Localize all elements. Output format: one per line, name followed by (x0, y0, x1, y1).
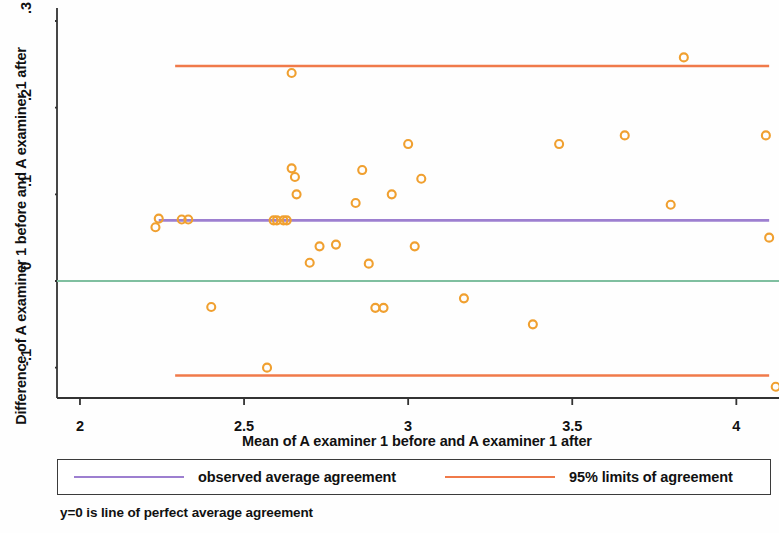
data-point (316, 242, 324, 250)
data-point (293, 190, 301, 198)
data-point (306, 259, 314, 267)
y-tick-label: .3 (18, 2, 34, 36)
data-point (288, 69, 296, 77)
data-point (291, 173, 299, 181)
y-tick-label: 0 (18, 262, 34, 296)
bland-altman-figure: Difference of A examiner 1 before and A … (0, 0, 779, 533)
data-point (151, 223, 159, 231)
data-point (762, 131, 770, 139)
legend: observed average agreement 95% limits of… (57, 459, 771, 495)
data-point (371, 304, 379, 312)
data-point (667, 201, 675, 209)
legend-item-observed-average-agreement: observed average agreement (74, 460, 396, 494)
x-tick-label: 2.5 (219, 418, 269, 434)
x-tick-label: 3.5 (547, 418, 597, 434)
data-point (765, 234, 773, 242)
data-point (380, 304, 388, 312)
legend-swatch-95-limits-of-agreement (445, 476, 555, 478)
data-point (207, 303, 215, 311)
legend-swatch-observed-average-agreement (74, 476, 184, 478)
legend-item-95-limits-of-agreement: 95% limits of agreement (445, 460, 733, 494)
data-point (352, 199, 360, 207)
data-point (388, 190, 396, 198)
y-tick-label: -.1 (18, 349, 34, 383)
data-point (529, 320, 537, 328)
data-point (263, 364, 271, 372)
data-point (680, 53, 688, 61)
data-point (288, 164, 296, 172)
y-tick-label: .1 (18, 175, 34, 209)
data-point (404, 140, 412, 148)
data-point (411, 242, 419, 250)
data-point (772, 383, 779, 391)
data-point (555, 140, 563, 148)
figure-caption: y=0 is line of perfect average agreement (60, 505, 313, 520)
plot-area: -.10.1.2.3 22.533.54 (55, 8, 779, 406)
scatter-points (151, 53, 779, 390)
data-point (358, 166, 366, 174)
data-point (365, 260, 373, 268)
x-tick-label: 3 (383, 418, 433, 434)
data-point (417, 175, 425, 183)
x-tick-label: 2 (55, 418, 105, 434)
plot-svg (55, 8, 779, 406)
x-axis-title: Mean of A examiner 1 before and A examin… (55, 433, 779, 449)
reference-lines (57, 66, 779, 375)
y-axis-title: Difference of A examiner 1 before and A … (13, 1, 29, 471)
y-tick-label: .2 (18, 89, 34, 123)
data-point (155, 215, 163, 223)
data-point (332, 241, 340, 249)
x-tick-label: 4 (711, 418, 761, 434)
data-point (460, 294, 468, 302)
x-axis-ticks (80, 398, 736, 405)
data-point (621, 131, 629, 139)
legend-label-95-limits-of-agreement: 95% limits of agreement (569, 469, 733, 485)
legend-label-observed-average-agreement: observed average agreement (198, 469, 396, 485)
